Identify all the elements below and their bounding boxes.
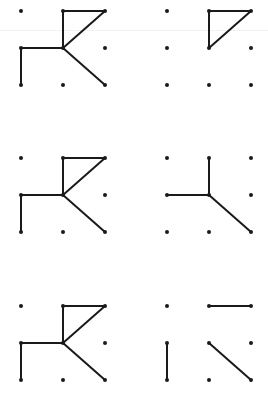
grid-dot [19, 230, 23, 234]
grid-dot [103, 9, 107, 13]
grid-dot [103, 230, 107, 234]
grid-dot [19, 46, 23, 50]
grid-dot [19, 83, 23, 87]
grid-dot [61, 156, 65, 160]
grid-dot [103, 193, 107, 197]
dot-grid-diagram [0, 0, 268, 393]
grid-dot [165, 341, 169, 345]
grid-dot [19, 156, 23, 160]
panel-row3-right [165, 304, 253, 382]
grid-dot [103, 304, 107, 308]
grid-dot [165, 230, 169, 234]
line-segment [63, 11, 105, 48]
grid-dot [19, 193, 23, 197]
line-segment [63, 48, 105, 85]
grid-dot [19, 9, 23, 13]
grid-dot [19, 304, 23, 308]
grid-dot [249, 378, 253, 382]
grid-dot [249, 193, 253, 197]
grid-dot [61, 304, 65, 308]
grid-dot [165, 378, 169, 382]
grid-dot [103, 378, 107, 382]
grid-dot [61, 230, 65, 234]
grid-dot [249, 230, 253, 234]
panel-row2-left [19, 156, 107, 234]
grid-dot [207, 378, 211, 382]
panel-row1-left [19, 9, 107, 87]
grid-dot [249, 304, 253, 308]
grid-dot [207, 156, 211, 160]
grid-dot [165, 193, 169, 197]
panel-row1-right [165, 9, 253, 87]
grid-dot [207, 83, 211, 87]
grid-dot [207, 46, 211, 50]
grid-dot [249, 156, 253, 160]
grid-dot [61, 46, 65, 50]
grid-dot [207, 230, 211, 234]
grid-dot [207, 304, 211, 308]
grid-dot [207, 193, 211, 197]
panel-row3-left [19, 304, 107, 382]
grid-dot [103, 156, 107, 160]
grid-dot [165, 83, 169, 87]
line-segment [63, 306, 105, 343]
grid-dot [19, 378, 23, 382]
grid-dot [165, 156, 169, 160]
grid-dot [207, 9, 211, 13]
grid-dot [61, 83, 65, 87]
grid-dot [61, 341, 65, 345]
grid-dot [165, 304, 169, 308]
line-segment [209, 11, 251, 48]
line-segment [63, 343, 105, 380]
grid-dot [103, 83, 107, 87]
grid-dot [165, 9, 169, 13]
grid-dot [103, 46, 107, 50]
grid-dot [249, 83, 253, 87]
line-segment [209, 343, 251, 380]
grid-dot [61, 193, 65, 197]
grid-dot [61, 9, 65, 13]
grid-dot [61, 378, 65, 382]
grid-dot [207, 341, 211, 345]
grid-dot [19, 341, 23, 345]
panel-row2-right [165, 156, 253, 234]
grid-dot [165, 46, 169, 50]
grid-dot [249, 46, 253, 50]
grid-dot [249, 9, 253, 13]
line-segment [209, 195, 251, 232]
grid-dot [249, 341, 253, 345]
grid-dot [103, 341, 107, 345]
line-segment [63, 158, 105, 195]
line-segment [63, 195, 105, 232]
